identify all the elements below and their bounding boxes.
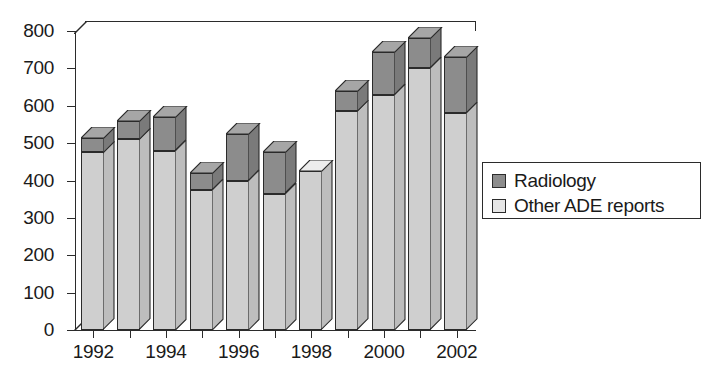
- bar-face-side: [466, 102, 479, 332]
- legend-label-radiology: Radiology: [514, 171, 596, 190]
- legend-swatch-other-ade-reports: [492, 199, 506, 213]
- legend-item-other-ade-reports: Other ADE reports: [492, 193, 700, 218]
- legend-swatch-radiology: [492, 174, 506, 188]
- bar-face-front: [444, 113, 467, 330]
- bar-face-front: [444, 57, 467, 113]
- bar-segment-other-ade-reports: [444, 113, 467, 330]
- bar-face-top: [444, 46, 480, 59]
- legend-item-radiology: Radiology: [492, 168, 700, 193]
- legend-label-other-ade-reports: Other ADE reports: [514, 196, 664, 215]
- bar-chart: 0100200300400500600700800 19921994199619…: [0, 0, 728, 387]
- bar-segment-radiology: [444, 57, 467, 113]
- chart-legend: Radiology Other ADE reports: [482, 162, 701, 219]
